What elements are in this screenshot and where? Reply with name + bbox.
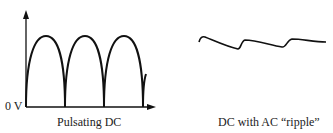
zero-volt-label: 0 V xyxy=(5,99,22,114)
x-axis-arrow-icon xyxy=(147,104,156,110)
ripple-caption: DC with AC “ripple” xyxy=(218,115,320,130)
pulsating-dc-graph xyxy=(23,10,156,110)
diagram-canvas xyxy=(0,0,333,133)
pulsating-dc-waveform xyxy=(26,36,146,107)
y-axis-arrow-icon xyxy=(23,10,29,19)
ripple-waveform xyxy=(199,37,326,49)
pulsating-dc-caption: Pulsating DC xyxy=(57,115,121,130)
ripple-graph xyxy=(199,37,326,49)
